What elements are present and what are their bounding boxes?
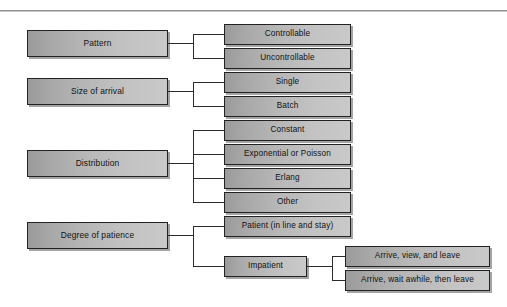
connector-distribution-child-0 [193,130,224,131]
connector-pattern-child-1 [193,58,224,59]
node-erlang[interactable]: Erlang [224,168,351,189]
connector-impatient-spine [332,256,333,281]
node-pattern[interactable]: Pattern [27,30,168,57]
connector-distribution-child-1 [193,154,224,155]
connector-size-of-arrival-stem [168,91,193,92]
connector-pattern-stem [168,43,193,44]
connector-distribution-spine [193,130,194,203]
connector-impatient-child-1 [332,280,345,281]
connector-size-of-arrival-child-1 [193,106,224,107]
node-other[interactable]: Other [224,192,351,213]
connector-distribution-stem [168,163,193,164]
connector-degree-of-patience-stem [168,235,193,236]
node-distribution[interactable]: Distribution [27,150,168,177]
node-impatient[interactable]: Impatient [224,256,307,277]
connector-distribution-child-3 [193,202,224,203]
connector-degree-of-patience-spine [193,226,194,267]
connector-impatient-child-0 [332,256,345,257]
connector-size-of-arrival-spine [193,82,194,107]
connector-impatient-stem [307,266,332,267]
connector-pattern-child-0 [193,34,224,35]
node-arrive-view-and-leave[interactable]: Arrive, view, and leave [345,246,490,267]
node-arrive-wait-awhile-then-leave[interactable]: Arrive, wait awhile, then leave [345,270,490,291]
node-exponential-or-poisson[interactable]: Exponential or Poisson [224,144,351,165]
connector-degree-of-patience-child-1 [193,266,224,267]
connector-distribution-child-2 [193,178,224,179]
connector-size-of-arrival-child-0 [193,82,224,83]
node-uncontrollable[interactable]: Uncontrollable [224,48,351,69]
node-patient[interactable]: Patient (in line and stay) [224,216,351,237]
node-size-of-arrival[interactable]: Size of arrival [27,78,168,105]
top-divider-rule [0,10,507,12]
node-single[interactable]: Single [224,72,351,93]
node-constant[interactable]: Constant [224,120,351,141]
node-degree-of-patience[interactable]: Degree of patience [27,222,168,249]
connector-pattern-spine [193,34,194,59]
connector-degree-of-patience-child-0 [193,226,224,227]
node-controllable[interactable]: Controllable [224,24,351,45]
node-batch[interactable]: Batch [224,96,351,117]
diagram-canvas: Pattern Controllable Uncontrollable Size… [0,0,507,307]
